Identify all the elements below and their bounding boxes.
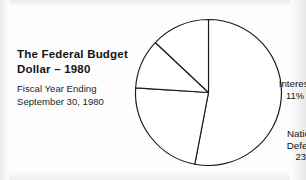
pie-value-national-defense: 23% <box>271 151 306 163</box>
page-canvas: The Federal Budget Dollar – 1980 Fiscal … <box>0 0 306 180</box>
page-title-line-1: The Federal Budget <box>17 47 142 62</box>
pie-label-national-defense: National Defense 23% <box>271 128 306 163</box>
chart-subtitle: Fiscal Year Ending September 30, 1980 <box>17 83 142 108</box>
chart-subtitle-line-1: Fiscal Year Ending <box>17 83 142 96</box>
pie-label-interest-line-1: Interest <box>267 78 306 90</box>
pie-value-all-other: 13% <box>302 62 306 74</box>
page-title-line-2: Dollar – 1980 <box>17 62 142 77</box>
pie-chart-svg <box>131 15 287 171</box>
pie-label-interest: Interest 11% <box>267 78 306 101</box>
pie-label-all-other-line-1: All <box>302 39 306 51</box>
chart-subtitle-line-2: September 30, 1980 <box>17 96 142 109</box>
pie-label-national-defense-line-2: Defense <box>271 140 306 152</box>
scan-edge-bottom <box>0 172 306 180</box>
pie-slice-group <box>135 20 281 166</box>
pie-chart: Human Resources 53% National Defense 23%… <box>131 15 287 171</box>
pie-value-interest: 11% <box>267 90 306 102</box>
scan-edge-top <box>0 0 306 6</box>
pie-slice-national-defense <box>135 88 208 164</box>
pie-label-all-other-line-2: Other <box>302 51 306 63</box>
pie-label-national-defense-line-1: National <box>271 128 306 140</box>
chart-title-block: The Federal Budget Dollar – 1980 Fiscal … <box>17 47 142 108</box>
pie-label-all-other: All Other 13% <box>302 39 306 74</box>
scan-edge-left <box>0 0 9 180</box>
